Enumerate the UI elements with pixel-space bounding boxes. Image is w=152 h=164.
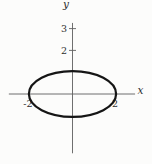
plot-canvas: 23-22xy — [0, 0, 152, 164]
ellipse-graph-figure: 23-22xy — [0, 0, 152, 164]
y-tick-label-2: 2 — [61, 45, 67, 56]
y-axis-label: y — [62, 0, 70, 10]
x-axis-label: x — [138, 84, 144, 96]
y-tick-label-3: 3 — [61, 23, 67, 34]
